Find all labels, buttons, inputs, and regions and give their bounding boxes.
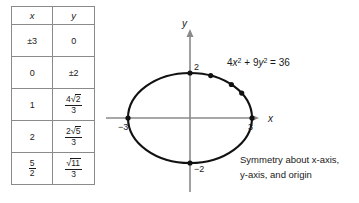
fraction-value: 4√2 3 — [65, 94, 82, 114]
fraction-value: √11 3 — [65, 158, 82, 178]
cell-y-value: ±2 — [69, 68, 79, 78]
tick-label-x-left: −3 — [118, 122, 128, 132]
cell-x-value: 0 — [30, 68, 35, 78]
column-header-x: x — [12, 7, 53, 25]
tick-label-y-top: 2 — [194, 62, 199, 72]
equation-label: 4x2 + 9y2 = 36 — [227, 57, 290, 69]
cell-x-value: ±3 — [27, 36, 37, 46]
ellipse-graph: x y 2 −2 3 −3 4x2 + 9y2 = 36 Symmetry ab… — [96, 0, 359, 203]
table-header-row: x y — [12, 7, 95, 25]
cell-x: 5 2 — [12, 153, 53, 185]
fraction-value: 2√5 3 — [65, 126, 82, 146]
tick-label-y-bottom: −2 — [194, 164, 204, 174]
fraction-denominator: 3 — [65, 170, 82, 179]
cell-y: 0 — [53, 25, 95, 57]
table-row: ±3 0 — [12, 25, 95, 57]
radicand: 11 — [70, 158, 81, 168]
point-marker — [187, 160, 192, 165]
cell-x: 1 — [12, 89, 53, 121]
cell-x: 2 — [12, 121, 53, 153]
cell-y: ±2 — [53, 57, 95, 89]
figure-container: x y ±3 0 0 ±2 — [0, 0, 359, 203]
radical-icon: √5 — [71, 126, 82, 136]
table-row: 1 4√2 3 — [12, 89, 95, 121]
y-axis-arrow-icon — [187, 29, 194, 37]
cell-y: 2√5 3 — [53, 121, 95, 153]
table-row: 5 2 √11 3 — [12, 153, 95, 185]
fraction-denominator: 3 — [65, 106, 82, 115]
x-axis-label: x — [267, 113, 274, 124]
cell-y: √11 3 — [53, 153, 95, 185]
cell-x-value: 1 — [30, 100, 35, 110]
y-axis-label: y — [181, 18, 188, 29]
radical-icon: √2 — [71, 94, 82, 104]
cell-x: 0 — [12, 57, 53, 89]
caption-line-1: Symmetry about x-axis, — [240, 154, 339, 165]
table-row: 2 2√5 3 — [12, 121, 95, 153]
point-marker — [239, 91, 244, 96]
cell-y-value: 0 — [71, 36, 76, 46]
point-marker — [187, 70, 192, 75]
cell-x: ±3 — [12, 25, 53, 57]
point-marker — [229, 82, 234, 87]
fraction-value: 5 2 — [29, 159, 36, 178]
cell-x-value: 2 — [30, 132, 35, 142]
point-marker — [208, 73, 213, 78]
radicand: 5 — [75, 126, 82, 136]
point-marker — [125, 115, 130, 120]
radical-icon: √11 — [66, 158, 81, 168]
fraction-denominator: 3 — [65, 138, 82, 147]
equation-rhs: 36 — [279, 57, 291, 68]
values-table: x y ±3 0 0 ±2 — [11, 6, 95, 185]
cell-y: 4√2 3 — [53, 89, 95, 121]
fraction-denominator: 2 — [29, 169, 36, 178]
column-header-y: y — [53, 7, 95, 25]
caption-line-2: y-axis, and origin — [240, 169, 312, 180]
tick-label-x-right: 3 — [248, 122, 253, 132]
point-marker — [249, 115, 254, 120]
radicand: 2 — [75, 94, 82, 104]
table-row: 0 ±2 — [12, 57, 95, 89]
